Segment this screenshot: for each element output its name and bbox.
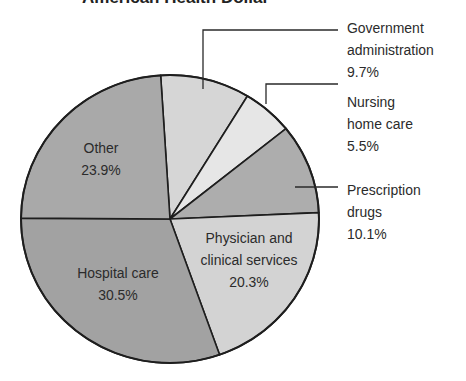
label-line: clinical services [201, 249, 298, 271]
label-value: 10.1% [347, 223, 421, 245]
label-value: 20.3% [201, 271, 298, 293]
label-line: administration [347, 39, 434, 61]
leader-line-nursing [266, 84, 338, 104]
label-line: drugs [347, 201, 421, 223]
label-line: Physician and [201, 227, 298, 249]
label-value: 23.9% [81, 159, 121, 181]
label-value: 5.5% [347, 135, 413, 157]
label-other: Other 23.9% [81, 137, 121, 181]
label-line: Hospital care [77, 262, 158, 284]
leader-line-government [203, 30, 338, 89]
label-line: Prescription [347, 179, 421, 201]
label-line: Government [347, 17, 434, 39]
label-physician-clinical-services: Physician and clinical services 20.3% [201, 227, 298, 293]
label-line: Nursing [347, 91, 413, 113]
label-value: 30.5% [77, 284, 158, 306]
label-line: home care [347, 113, 413, 135]
label-prescription-drugs: Prescription drugs 10.1% [347, 179, 421, 245]
label-value: 9.7% [347, 61, 434, 83]
label-line: Other [81, 137, 121, 159]
label-nursing-home-care: Nursing home care 5.5% [347, 91, 413, 157]
label-hospital-care: Hospital care 30.5% [77, 262, 158, 306]
label-government-administration: Government administration 9.7% [347, 17, 434, 83]
